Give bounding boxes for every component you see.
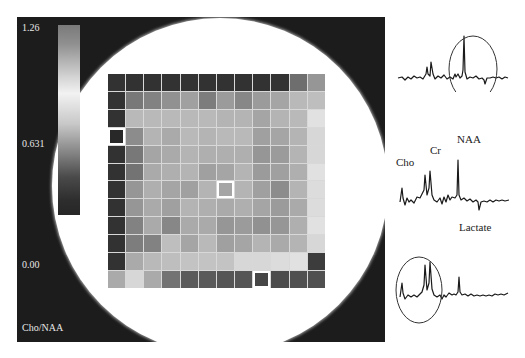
voxel [144, 199, 161, 216]
voxel [181, 128, 198, 145]
voxel [290, 181, 307, 198]
voxel [217, 146, 234, 163]
voxel [290, 217, 307, 234]
voxel [235, 199, 252, 216]
voxel [290, 253, 307, 270]
voxel [162, 128, 179, 145]
voxel [144, 128, 161, 145]
voxel [162, 199, 179, 216]
voxel [162, 217, 179, 234]
voxel [308, 217, 325, 234]
voxel [181, 164, 198, 181]
voxel [253, 253, 270, 270]
voxel [235, 146, 252, 163]
voxel [217, 128, 234, 145]
voxel [217, 271, 234, 288]
voxel [144, 181, 161, 198]
voxel [199, 181, 216, 198]
voxel [162, 164, 179, 181]
voxel [108, 164, 125, 181]
voxel [144, 164, 161, 181]
voxel [108, 146, 125, 163]
voxel [162, 181, 179, 198]
voxel [253, 164, 270, 181]
voxel [108, 217, 125, 234]
voxel [199, 199, 216, 216]
voxel [308, 146, 325, 163]
voxel [271, 217, 288, 234]
voxel [217, 74, 234, 91]
voxel [108, 235, 125, 252]
voxel [217, 110, 234, 127]
voxel [181, 110, 198, 127]
voxel [162, 74, 179, 91]
voxel [181, 92, 198, 109]
voxel [126, 181, 143, 198]
voxel [162, 92, 179, 109]
voxel [271, 110, 288, 127]
spectrum-middle [392, 140, 522, 220]
voxel [162, 110, 179, 127]
voxel [181, 181, 198, 198]
voxel [253, 74, 270, 91]
voxel [144, 92, 161, 109]
voxel [162, 271, 179, 288]
voxel [308, 181, 325, 198]
voxel [181, 74, 198, 91]
voxel [217, 164, 234, 181]
voxel [126, 128, 143, 145]
voxel [235, 253, 252, 270]
voxel [235, 92, 252, 109]
voxel [108, 271, 125, 288]
voxel [199, 235, 216, 252]
voxel [253, 235, 270, 252]
voxel [108, 74, 125, 91]
voxel [126, 217, 143, 234]
voxel [199, 164, 216, 181]
voxel [253, 217, 270, 234]
voxel [271, 128, 288, 145]
voxel [290, 110, 307, 127]
voxel [144, 110, 161, 127]
voxel [144, 271, 161, 288]
voxel [144, 217, 161, 234]
voxel [271, 92, 288, 109]
voxel [181, 235, 198, 252]
colorbar [58, 25, 80, 215]
voxel [308, 271, 325, 288]
voxel [290, 271, 307, 288]
highlighted-voxel [217, 181, 234, 198]
voxel [162, 146, 179, 163]
voxel [181, 146, 198, 163]
voxel [235, 74, 252, 91]
voxel [253, 128, 270, 145]
voxel [308, 199, 325, 216]
voxel [253, 146, 270, 163]
voxel [144, 235, 161, 252]
voxel [235, 181, 252, 198]
voxel [199, 146, 216, 163]
spectrum-bottom [392, 255, 522, 335]
voxel [271, 271, 288, 288]
voxel [308, 110, 325, 127]
voxel [126, 235, 143, 252]
metric-label: Cho/NAA [22, 323, 63, 333]
voxel [235, 235, 252, 252]
voxel [126, 92, 143, 109]
voxel [181, 199, 198, 216]
voxel [271, 253, 288, 270]
voxel [144, 146, 161, 163]
voxel [271, 235, 288, 252]
voxel [199, 110, 216, 127]
voxel [217, 217, 234, 234]
voxel [308, 128, 325, 145]
voxel [290, 74, 307, 91]
voxel [290, 164, 307, 181]
voxel [308, 253, 325, 270]
voxel [308, 92, 325, 109]
voxel [235, 271, 252, 288]
voxel [235, 110, 252, 127]
voxel [217, 235, 234, 252]
voxel [162, 235, 179, 252]
spectrum-top [392, 22, 522, 92]
